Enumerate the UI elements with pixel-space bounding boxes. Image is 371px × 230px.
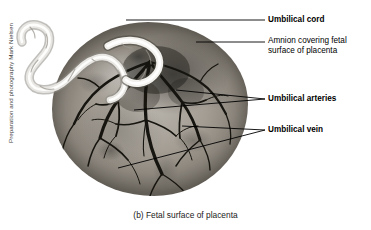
placenta-figure: Preparation and photography Mark Nielsen: [0, 0, 371, 230]
label-umbilical-cord: Umbilical cord: [268, 15, 324, 25]
label-umbilical-arteries: Umbilical arteries: [268, 94, 336, 104]
figure-caption: (b) Fetal surface of placenta: [0, 210, 371, 220]
placenta-disc: [52, 22, 248, 196]
label-umbilical-vein: Umbilical vein: [268, 125, 323, 135]
label-amnion: Amnion covering fetal surface of placent…: [268, 36, 352, 55]
